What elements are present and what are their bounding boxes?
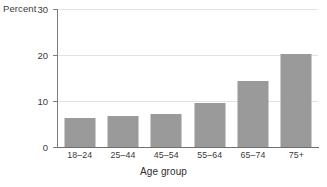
y-tick-mark xyxy=(53,147,57,148)
bar[interactable] xyxy=(64,118,95,147)
x-tick-label: 25–44 xyxy=(111,150,136,160)
bar[interactable] xyxy=(151,114,182,147)
bar-group xyxy=(188,9,231,147)
bar[interactable] xyxy=(237,81,268,147)
x-tick-label: 75+ xyxy=(289,150,304,160)
x-tick-label: 55–64 xyxy=(197,150,222,160)
bar[interactable] xyxy=(107,116,138,147)
bar-chart: Percent 0102030 18–2425–4445–5455–6465–7… xyxy=(0,0,327,187)
plot-area xyxy=(58,9,318,147)
y-tick-label: 20 xyxy=(37,50,48,61)
y-tick-label: 0 xyxy=(43,142,48,153)
x-axis-title: Age group xyxy=(0,166,327,177)
bar[interactable] xyxy=(281,54,312,147)
bar-group xyxy=(101,9,144,147)
bar[interactable] xyxy=(194,103,225,147)
y-axis-line xyxy=(57,9,58,148)
bar-group xyxy=(145,9,188,147)
x-tick-label: 45–54 xyxy=(154,150,179,160)
y-tick-mark xyxy=(53,101,57,102)
x-tick-label: 18–24 xyxy=(67,150,92,160)
y-tick-label: 30 xyxy=(37,4,48,15)
y-axis-title: Percent xyxy=(3,3,36,14)
x-axis-line xyxy=(57,147,319,148)
y-tick-mark xyxy=(53,9,57,10)
y-tick-mark xyxy=(53,55,57,56)
bar-group xyxy=(275,9,318,147)
bars-layer xyxy=(58,9,318,147)
bar-group xyxy=(231,9,274,147)
bar-group xyxy=(58,9,101,147)
x-tick-label: 65–74 xyxy=(241,150,266,160)
y-tick-label: 10 xyxy=(37,96,48,107)
